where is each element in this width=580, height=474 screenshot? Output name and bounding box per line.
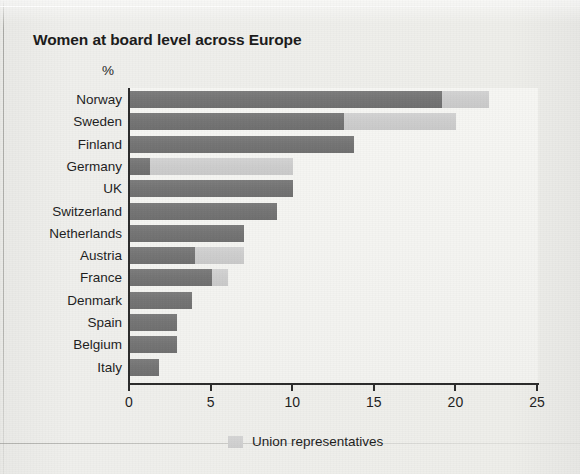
bar-segment-women-on-boards	[130, 269, 212, 286]
bar-segment-women-on-boards	[130, 292, 192, 309]
bar-row	[130, 180, 293, 197]
y-axis-label-sweden: Sweden	[73, 114, 122, 129]
bar-row	[130, 269, 228, 286]
bar-segment-union-representatives	[195, 247, 244, 264]
y-axis-label-switzerland: Switzerland	[52, 204, 122, 219]
y-axis-label-denmark: Denmark	[67, 293, 122, 308]
x-tick-label-0: 0	[125, 394, 133, 410]
page-edge-top	[0, 6, 580, 7]
bar-row	[130, 158, 293, 175]
x-tick-20	[454, 383, 456, 391]
bar-segment-women-on-boards	[130, 247, 195, 264]
y-axis-label-uk: UK	[103, 181, 122, 196]
x-tick-label-10: 10	[284, 394, 300, 410]
y-axis-label-germany: Germany	[66, 159, 122, 174]
y-axis-label-finland: Finland	[78, 137, 122, 152]
bar-segment-women-on-boards	[130, 359, 159, 376]
bar-segment-women-on-boards	[130, 158, 150, 175]
bar-segment-women-on-boards	[130, 203, 277, 220]
x-tick-15	[373, 383, 375, 391]
bar-row	[130, 136, 354, 153]
bar-segment-women-on-boards	[130, 225, 244, 242]
x-tick-label-20: 20	[448, 394, 464, 410]
x-tick-label-15: 15	[366, 394, 382, 410]
y-axis-line	[128, 88, 130, 385]
chart-figure: Women at board level across Europe % Nor…	[0, 0, 580, 474]
bar-row	[130, 203, 277, 220]
bar-segment-women-on-boards	[130, 113, 344, 130]
chart-title: Women at board level across Europe	[33, 31, 302, 49]
bar-segment-union-representatives	[212, 269, 228, 286]
bar-segment-women-on-boards	[130, 91, 442, 108]
y-axis-label-austria: Austria	[80, 248, 122, 263]
y-axis-label-netherlands: Netherlands	[49, 226, 122, 241]
bar-row	[130, 247, 244, 264]
bar-segment-women-on-boards	[130, 336, 177, 353]
bar-segment-union-representatives	[344, 113, 457, 130]
bar-segment-union-representatives	[150, 158, 294, 175]
bar-segment-women-on-boards	[130, 314, 177, 331]
y-axis-label-norway: Norway	[76, 92, 122, 107]
y-axis-label-italy: Italy	[97, 360, 122, 375]
y-axis-label-belgium: Belgium	[73, 337, 122, 352]
legend-swatch-union-representatives	[228, 436, 243, 448]
y-axis-label-france: France	[80, 270, 122, 285]
bar-row	[130, 314, 177, 331]
x-tick-label-5: 5	[207, 394, 215, 410]
axis-unit-label: %	[102, 63, 114, 78]
bar-row	[130, 91, 489, 108]
bar-row	[130, 225, 244, 242]
x-tick-5	[210, 383, 212, 391]
bar-row	[130, 336, 177, 353]
legend-label-union-representatives: Union representatives	[252, 434, 383, 449]
bar-segment-union-representatives	[442, 91, 489, 108]
x-axis-line	[128, 383, 539, 385]
x-tick-0	[128, 383, 130, 391]
x-tick-10	[291, 383, 293, 391]
y-axis-category-labels: NorwaySwedenFinlandGermanyUKSwitzerlandN…	[0, 88, 122, 385]
plot-area: 0510152025	[128, 88, 538, 385]
chart-legend: Union representatives	[228, 434, 383, 449]
y-axis-label-spain: Spain	[87, 315, 122, 330]
x-tick-label-25: 25	[529, 394, 545, 410]
x-tick-25	[536, 383, 538, 391]
bar-row	[130, 292, 192, 309]
bar-segment-women-on-boards	[130, 180, 293, 197]
bar-row	[130, 359, 159, 376]
bar-segment-women-on-boards	[130, 136, 354, 153]
bar-row	[130, 113, 456, 130]
